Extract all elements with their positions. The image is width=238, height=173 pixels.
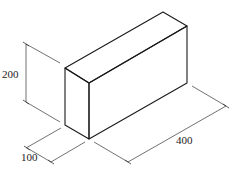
length-label: 400 [176, 135, 193, 146]
brick-outline [65, 12, 187, 139]
brick-diagram: 200 100 400 [0, 0, 238, 173]
width-label: 100 [21, 152, 38, 163]
end-face [65, 68, 89, 139]
top-face [65, 12, 187, 83]
brick-drawing [0, 0, 238, 173]
side-face [89, 26, 187, 139]
height-label: 200 [2, 69, 19, 80]
height-dimension [23, 42, 60, 122]
